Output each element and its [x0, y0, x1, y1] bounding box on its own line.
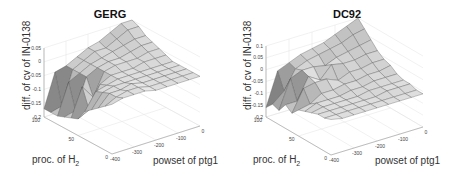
y-axis-label: proc. of H2 [32, 154, 79, 167]
surface-mesh [266, 18, 423, 120]
surface-mesh [44, 20, 200, 119]
z-axis-label: diff. of cv of IN-0138 [21, 20, 32, 110]
plot-title: GERG [94, 8, 126, 20]
svg-text:100: 100 [254, 117, 263, 123]
svg-text:0: 0 [38, 58, 41, 64]
svg-text:0.05: 0.05 [31, 45, 41, 51]
figure: GERG 0.050-0.05-0.1-0.15-0.2050100-400-3… [0, 0, 452, 175]
svg-text:-0.15: -0.15 [252, 102, 264, 108]
svg-text:0: 0 [260, 66, 263, 72]
svg-text:-300: -300 [132, 149, 142, 155]
svg-text:-100: -100 [176, 135, 186, 141]
dc92-surface-plot: DC92 0.10.050-0.05-0.1-0.15-0.2050100-40… [242, 8, 440, 167]
svg-text:0: 0 [425, 129, 428, 135]
gerg-surface-plot: GERG 0.050-0.05-0.1-0.15-0.2050100-400-3… [21, 8, 218, 167]
svg-text:-200: -200 [154, 142, 164, 148]
svg-text:50: 50 [289, 136, 295, 142]
svg-text:-300: -300 [352, 150, 362, 156]
svg-text:0: 0 [324, 155, 327, 161]
svg-text:100: 100 [32, 117, 41, 123]
x-axis-label: powset of ptg1 [375, 155, 440, 166]
y-axis-label: proc. of H2 [253, 154, 300, 167]
svg-text:-200: -200 [375, 143, 385, 149]
svg-text:-100: -100 [398, 136, 408, 142]
x-axis-label: powset of ptg1 [153, 155, 218, 166]
svg-text:0.1: 0.1 [256, 43, 263, 49]
svg-text:-0.1: -0.1 [32, 86, 41, 92]
svg-text:-400: -400 [329, 157, 339, 163]
z-axis-label: diff. of cv of IN-0138 [242, 20, 253, 110]
svg-text:0: 0 [105, 154, 108, 160]
svg-text:-0.05: -0.05 [252, 78, 264, 84]
svg-text:-400: -400 [110, 156, 120, 162]
svg-text:-0.1: -0.1 [254, 90, 263, 96]
svg-text:0: 0 [202, 128, 205, 134]
svg-text:0.05: 0.05 [253, 54, 263, 60]
svg-text:50: 50 [68, 136, 74, 142]
